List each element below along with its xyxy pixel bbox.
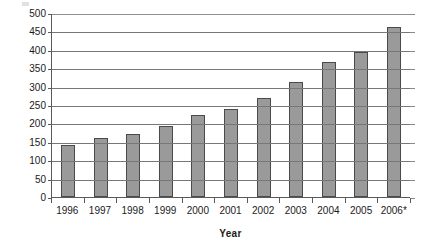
bar-1996 — [61, 145, 75, 197]
y-axis-right-tick-stub — [410, 143, 415, 144]
y-axis-tick-label: 100 — [16, 156, 46, 166]
gridline — [52, 14, 410, 15]
x-axis-tick-mark — [279, 198, 280, 203]
bar-2001 — [224, 109, 238, 197]
y-axis-right-tick-stub — [410, 51, 415, 52]
x-axis-tick-label: 2002 — [247, 205, 280, 221]
y-axis-tick-label: 400 — [16, 46, 46, 56]
gridline — [52, 32, 410, 33]
y-axis-tick-label: 50 — [16, 175, 46, 185]
x-axis-tick-label: 2005 — [345, 205, 378, 221]
y-axis-tick-mark — [48, 14, 52, 15]
x-axis-tick-label: 2003 — [279, 205, 312, 221]
y-axis-right-tick-stub — [410, 32, 415, 33]
bar-2006 — [387, 27, 401, 197]
y-axis-tick-label: 200 — [16, 119, 46, 129]
y-axis-right-tick-stub — [410, 88, 415, 89]
x-axis-tick-label: 2001 — [214, 205, 247, 221]
y-axis-tick-label: 0 — [16, 193, 46, 203]
y-axis-tick-mark — [48, 106, 52, 107]
x-axis-tick-mark — [116, 198, 117, 203]
x-axis-tick-mark — [377, 198, 378, 203]
gridline — [52, 180, 410, 181]
x-axis-tick-marks — [51, 198, 410, 203]
x-axis-tick-labels: 1996199719981999200020012002200320042005… — [51, 205, 410, 221]
y-axis-tick-mark — [48, 88, 52, 89]
y-axis-tick-mark — [48, 32, 52, 33]
gridline — [52, 124, 410, 125]
x-axis-tick-mark — [214, 198, 215, 203]
x-axis-tick-mark — [84, 198, 85, 203]
bar-1998 — [126, 134, 140, 197]
y-axis-tick-mark — [48, 143, 52, 144]
y-axis-tick-mark — [48, 51, 52, 52]
y-axis-tick-mark — [48, 180, 52, 181]
x-axis-tick-label: 1998 — [116, 205, 149, 221]
y-axis-tick-label: 350 — [16, 64, 46, 74]
x-axis-tick-mark — [410, 198, 411, 203]
y-axis-right-tick-stub — [410, 14, 415, 15]
bar-chart: Visits (mns) 500450400350300250200150100… — [0, 0, 425, 251]
y-axis-tick-mark — [48, 124, 52, 125]
y-axis-tick-label: 500 — [16, 9, 46, 19]
gridline — [52, 69, 410, 70]
x-axis-tick-mark — [149, 198, 150, 203]
x-axis-tick-label: 2004 — [312, 205, 345, 221]
x-axis-tick-label: 2000 — [182, 205, 215, 221]
gridline — [52, 106, 410, 107]
bar-2004 — [322, 62, 336, 197]
scan-artifact — [22, 2, 29, 6]
y-axis-right-tick-stub — [410, 106, 415, 107]
x-axis-title: Year — [51, 228, 410, 239]
x-axis-tick-mark — [51, 198, 52, 203]
y-axis-tick-label: 250 — [16, 101, 46, 111]
x-axis-tick-label: 2006* — [377, 205, 410, 221]
gridline — [52, 88, 410, 89]
plot-area — [51, 14, 410, 198]
x-axis-tick-mark — [345, 198, 346, 203]
y-axis-tick-mark — [48, 161, 52, 162]
y-axis-tick-mark — [48, 69, 52, 70]
x-axis-tick-mark — [247, 198, 248, 203]
y-axis-right-tick-stub — [410, 124, 415, 125]
gridline — [52, 161, 410, 162]
y-axis-tick-labels: 500450400350300250200150100500 — [16, 14, 46, 198]
x-axis-tick-label: 1997 — [84, 205, 117, 221]
gridline — [52, 51, 410, 52]
y-axis-right-tick-stub — [410, 69, 415, 70]
y-axis-tick-label: 450 — [16, 27, 46, 37]
bar-1997 — [94, 138, 108, 197]
gridline — [52, 143, 410, 144]
y-axis-right-tick-stub — [410, 180, 415, 181]
x-axis-tick-label: 1999 — [149, 205, 182, 221]
bar-2002 — [257, 98, 271, 197]
y-axis-tick-label: 300 — [16, 83, 46, 93]
x-axis-tick-label: 1996 — [51, 205, 84, 221]
bar-2000 — [191, 115, 205, 197]
y-axis-tick-label: 150 — [16, 138, 46, 148]
x-axis-tick-mark — [182, 198, 183, 203]
x-axis-tick-mark — [312, 198, 313, 203]
y-axis-right-tick-stub — [410, 161, 415, 162]
